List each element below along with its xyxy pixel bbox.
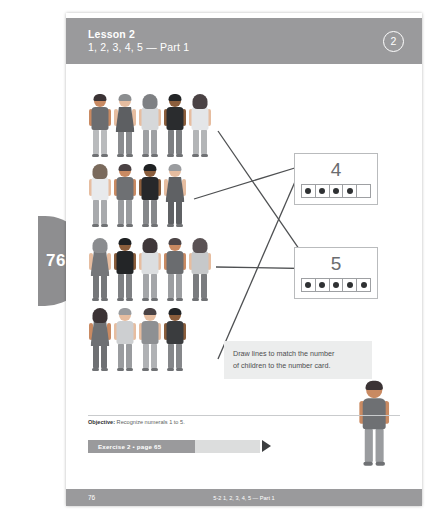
number-card-5[interactable]: 5 (294, 247, 378, 299)
lesson-header: Lesson 2 1, 2, 3, 4, 5 — Part 1 2 (66, 18, 422, 64)
matching-line[interactable] (218, 161, 304, 359)
page-sheet: Lesson 2 1, 2, 3, 4, 5 — Part 1 2 4 5 (66, 13, 422, 506)
child-figure (88, 95, 112, 157)
instruction-box: Draw lines to match the number of childr… (224, 341, 372, 379)
child-group-row-1 (88, 95, 212, 157)
five-frame-cell (330, 185, 344, 197)
counter-dot (319, 282, 325, 288)
divider (88, 415, 400, 416)
lesson-number-badge: 2 (383, 31, 404, 52)
five-frame (301, 278, 371, 292)
footer-page-number: 76 (88, 494, 95, 501)
instruction-line-1: Draw lines to match the number (233, 348, 363, 360)
child-group-row-2 (88, 165, 187, 227)
five-frame-cell (357, 279, 370, 291)
five-frame-cell (343, 185, 357, 197)
counter-dot (347, 188, 353, 194)
triangle-right-icon (262, 440, 271, 452)
child-group-row-4 (88, 309, 187, 371)
lesson-header-text: Lesson 2 1, 2, 3, 4, 5 — Part 1 (88, 28, 189, 54)
child-figure (163, 95, 187, 157)
child-figure (358, 382, 390, 466)
child-figure (138, 309, 162, 371)
five-frame (301, 184, 371, 198)
child-figure (88, 309, 112, 371)
counter-dot (333, 188, 339, 194)
five-frame-cell (302, 185, 316, 197)
child-figure (163, 165, 187, 227)
counter-dot (347, 282, 353, 288)
child-figure (113, 239, 137, 301)
objective-label: Objective: (88, 419, 115, 425)
counter-dot (361, 282, 367, 288)
child-figure (188, 95, 212, 157)
child-figure (88, 165, 112, 227)
counter-dot (333, 282, 339, 288)
child-figure (113, 309, 137, 371)
child-figure (188, 239, 212, 301)
child-figure (88, 239, 112, 301)
activity-area: 4 5 Draw lines to match the number of ch… (66, 69, 422, 419)
exercise-banner-label: Exercise 2 • page 65 (98, 443, 161, 450)
child-group-row-3 (88, 239, 212, 301)
five-frame-cell (357, 185, 370, 197)
page-footer: 76 5-2 1, 2, 3, 4, 5 — Part 1 (66, 489, 422, 506)
five-frame-cell (343, 279, 357, 291)
decorative-child-figure (358, 382, 390, 466)
counter-dot (305, 282, 311, 288)
five-frame-cell (316, 185, 330, 197)
number-card-numeral: 4 (295, 154, 377, 179)
footer-lesson-label: 5-2 1, 2, 3, 4, 5 — Part 1 (66, 495, 422, 501)
child-figure (163, 309, 187, 371)
lesson-title: Lesson 2 (88, 28, 189, 41)
child-figure (138, 165, 162, 227)
child-figure (138, 95, 162, 157)
number-card-numeral: 5 (295, 248, 377, 273)
counter-dot (305, 188, 311, 194)
number-card-4[interactable]: 4 (294, 153, 378, 205)
instruction-line-2: of children to the number card. (233, 360, 363, 372)
objective-text: Recognize numerals 1 to 5. (117, 419, 185, 425)
exercise-banner[interactable]: Exercise 2 • page 65 (88, 440, 260, 453)
objective-line: Objective: Recognize numerals 1 to 5. (88, 419, 185, 425)
child-figure (113, 165, 137, 227)
child-figure (163, 239, 187, 301)
lesson-subtitle: 1, 2, 3, 4, 5 — Part 1 (88, 41, 189, 54)
five-frame-cell (316, 279, 330, 291)
page-tab-number: 76 (46, 251, 66, 271)
five-frame-cell (330, 279, 344, 291)
worksheet-page: 76 Lesson 2 1, 2, 3, 4, 5 — Part 1 2 4 (0, 0, 434, 519)
five-frame-cell (302, 279, 316, 291)
counter-dot (319, 188, 325, 194)
child-figure (113, 95, 137, 157)
child-figure (138, 239, 162, 301)
